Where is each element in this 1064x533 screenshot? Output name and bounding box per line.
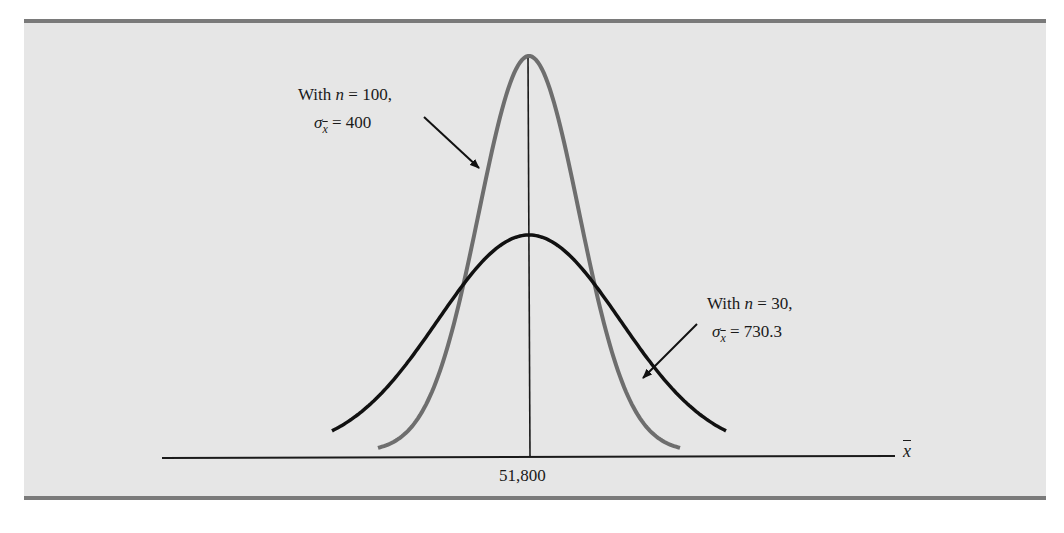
xbar-subscript: x: [720, 331, 725, 345]
n-variable: n: [336, 85, 345, 104]
annotation-n30-line1: With n = 30,: [707, 295, 792, 312]
x-axis: [162, 456, 895, 458]
annotation-n100-line1: With n = 100,: [298, 86, 392, 103]
n-variable: n: [745, 294, 754, 313]
x-axis-label: x: [903, 441, 911, 462]
std-error-value: = 400: [328, 113, 372, 132]
annotation-text: With: [707, 294, 745, 313]
n-value: = 30,: [753, 294, 792, 313]
annotation-text: With: [298, 85, 336, 104]
x-tick-mean: 51,800: [499, 467, 546, 484]
annotation-n30-line2: σx = 730.3: [712, 323, 782, 340]
std-error-value: = 730.3: [726, 322, 782, 341]
n-value: = 100,: [344, 85, 392, 104]
mean-line: [528, 57, 530, 457]
annotation-n100-line2: σx = 400: [314, 114, 371, 131]
arrow-n100: [424, 117, 479, 168]
arrow-n30: [643, 324, 697, 378]
xbar-subscript: x: [322, 122, 327, 136]
